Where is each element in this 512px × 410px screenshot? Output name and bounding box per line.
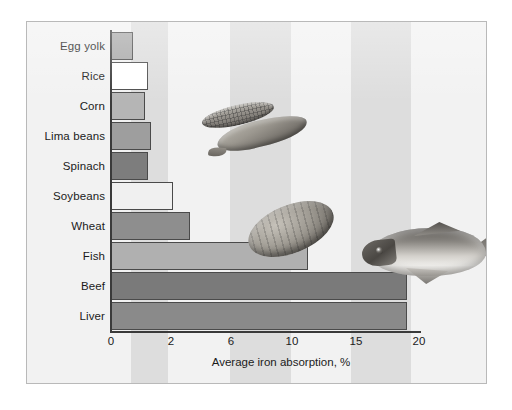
bar-row: Wheat (111, 212, 190, 240)
category-label: Spinach (63, 160, 105, 172)
category-label: Corn (80, 100, 105, 112)
bar-row: Lima beans (111, 122, 151, 150)
category-label: Egg yolk (60, 40, 105, 52)
bar (111, 122, 151, 150)
bar-row: Soybeans (111, 182, 173, 210)
bar (111, 302, 407, 330)
y-axis-line (110, 30, 112, 332)
bar-row: Spinach (111, 152, 148, 180)
bar (111, 182, 173, 210)
bar-row: Egg yolk (111, 32, 133, 60)
category-label: Beef (81, 280, 105, 292)
bar-row: Liver (111, 302, 407, 330)
x-axis-title: Average iron absorption, % (212, 356, 351, 368)
plot-area: Egg yolk Rice Corn Lima beans Spinach So… (27, 22, 486, 383)
category-label: Wheat (71, 220, 105, 232)
category-label: Fish (83, 250, 105, 262)
bar-row: Rice (111, 62, 148, 90)
category-label: Rice (82, 70, 105, 82)
category-label: Liver (80, 310, 105, 322)
chart-figure: Egg yolk Rice Corn Lima beans Spinach So… (26, 21, 487, 384)
bar-row: Corn (111, 92, 145, 120)
bar (111, 152, 148, 180)
x-axis-line (110, 331, 421, 333)
x-tick-label: 15 (350, 335, 363, 347)
x-tick-label: 20 (413, 335, 426, 347)
x-tick-label: 0 (108, 335, 114, 347)
fish-photo (362, 220, 487, 286)
bar (111, 62, 148, 90)
x-tick-label: 10 (286, 335, 299, 347)
x-tick-label: 2 (168, 335, 174, 347)
bar (111, 32, 133, 60)
x-tick-label: 6 (228, 335, 234, 347)
category-label: Lima beans (45, 130, 105, 142)
bean-pod-tip (208, 147, 227, 157)
bar (111, 212, 190, 240)
category-label: Soybeans (53, 190, 105, 202)
fish-eye (376, 247, 383, 254)
bar (111, 92, 145, 120)
